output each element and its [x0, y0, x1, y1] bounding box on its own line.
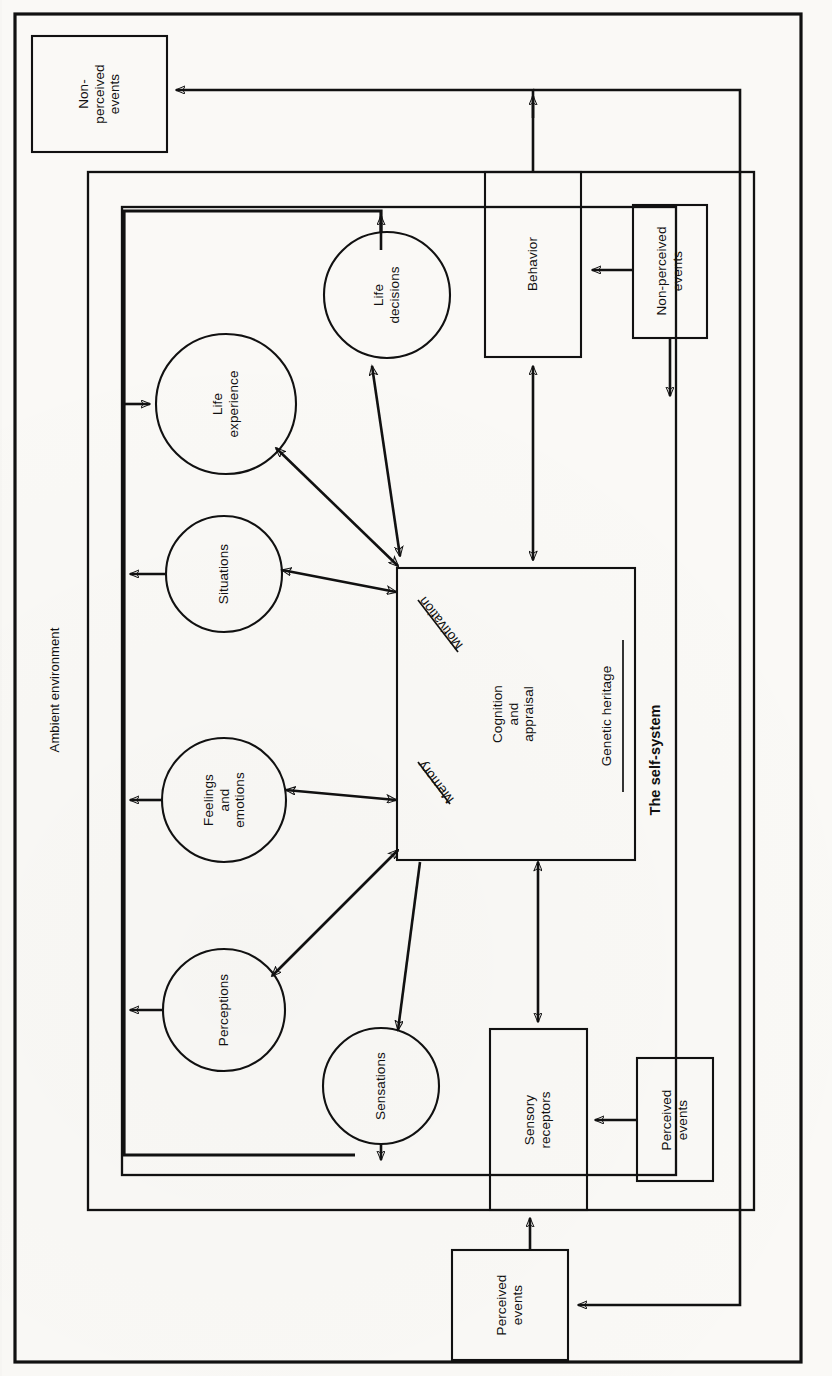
node-life-experience: Life experience — [210, 370, 241, 437]
node-sensations: Sensations — [373, 1052, 389, 1120]
core-cognition-label: Cognition and appraisal — [490, 685, 537, 743]
node-non-perceived-events-outer: Non- perceived events — [76, 64, 123, 123]
node-feelings-and-emotions: Feelings and emotions — [201, 772, 248, 828]
node-life-decisions: Life decisions — [371, 266, 402, 323]
core-genetic-heritage-label: Genetic heritage — [599, 666, 615, 767]
figure-page: Ambient environment The self-system Non-… — [0, 0, 832, 1376]
node-non-perceived-events-inner: Non-perceived events — [654, 226, 685, 315]
node-behavior: Behavior — [525, 237, 541, 291]
node-situations: Situations — [216, 544, 232, 604]
self-system-label: The self-system — [647, 704, 664, 815]
ambient-environment-label: Ambient environment — [47, 628, 62, 753]
node-perceived-events-outer: Perceived events — [494, 1275, 525, 1336]
self-system-diagram — [0, 0, 832, 1376]
node-perceptions: Perceptions — [216, 974, 232, 1046]
node-sensory-receptors: Sensory receptors — [522, 1091, 553, 1148]
node-perceived-events-inner: Perceived events — [659, 1090, 690, 1151]
